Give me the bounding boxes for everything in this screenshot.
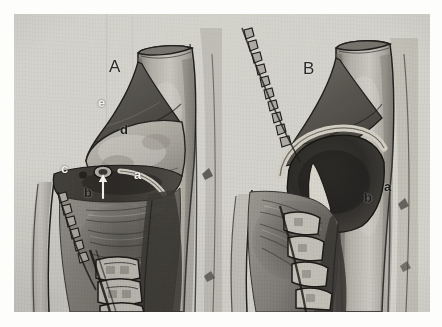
panel-a-label-e: e bbox=[98, 96, 105, 109]
panel-b-label-b: b bbox=[364, 191, 372, 204]
panel-a-label-c: c bbox=[61, 162, 68, 175]
panel-a-label-d: d bbox=[120, 123, 128, 136]
panel-b-label-a: a bbox=[384, 180, 391, 193]
panel-b-drawing bbox=[222, 14, 430, 312]
illustration-plate: A e d c b a B a b bbox=[0, 0, 442, 327]
panel-a-label-b: b bbox=[84, 186, 92, 199]
panel-b bbox=[222, 14, 430, 312]
figure-image: A e d c b a B a b bbox=[14, 14, 430, 312]
panel-a-title: A bbox=[109, 58, 120, 75]
panel-b-title: B bbox=[303, 60, 314, 77]
panel-a-label-a: a bbox=[134, 168, 141, 181]
arrow-to-b bbox=[99, 174, 107, 198]
